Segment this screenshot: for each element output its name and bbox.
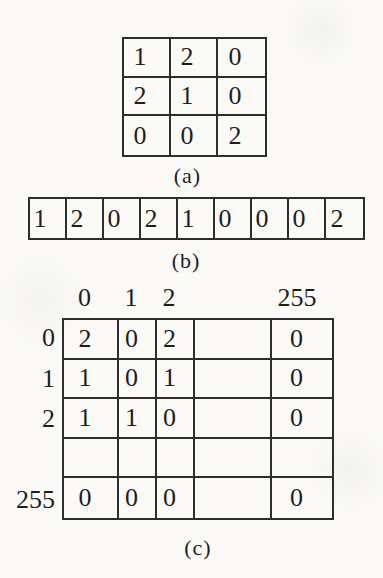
table-b-cell: 0 <box>289 199 326 238</box>
caption-b: (b) <box>0 248 372 274</box>
table-c-cell: 0 <box>272 320 332 360</box>
table-c-row-header <box>16 439 55 479</box>
table-c-cell: 0 <box>119 360 157 400</box>
table-c-cell: 1 <box>119 399 157 439</box>
table-a-cell: 0 <box>218 39 265 78</box>
table-c-col-header: 2 <box>155 283 193 311</box>
table-c-cell <box>157 439 195 479</box>
table-c-cell: 0 <box>119 320 157 360</box>
table-b-cell: 1 <box>30 199 67 238</box>
table-c-col-header: 255 <box>270 283 334 311</box>
table-c-cell: 2 <box>64 320 119 360</box>
table-a-cell: 0 <box>218 78 265 117</box>
table-c-cell <box>64 439 119 479</box>
table-c-cell: 0 <box>272 399 332 439</box>
table-c-row-header: 0 <box>16 318 55 358</box>
table-c-cell: 2 <box>157 320 195 360</box>
table-a-cell: 1 <box>171 78 218 117</box>
table-c-row-header: 2 <box>16 399 55 439</box>
table-b-cell: 0 <box>215 199 252 238</box>
table-a-cell: 2 <box>124 78 171 117</box>
table-a-cell: 2 <box>218 116 265 155</box>
table-c-row-header: 255 <box>16 480 55 520</box>
scanned-figure-page: 1 2 0 2 1 0 0 0 2 (a) 1 2 0 2 1 0 0 0 2 … <box>0 0 383 578</box>
table-c-cell <box>272 439 332 479</box>
table-b-cell: 2 <box>141 199 178 238</box>
table-c-col-header: 1 <box>117 283 155 311</box>
table-b: 1 2 0 2 1 0 0 0 2 <box>28 197 365 240</box>
table-c-cell: 0 <box>119 478 157 518</box>
table-c-row-header: 1 <box>16 358 55 398</box>
caption-a: (a) <box>122 163 253 189</box>
table-c-cell: 0 <box>272 478 332 518</box>
table-c: 2 0 2 0 1 0 1 0 1 1 0 0 0 0 0 0 <box>62 318 334 520</box>
table-c-cell: 1 <box>64 360 119 400</box>
table-c-cell: 0 <box>157 399 195 439</box>
table-c-row-headers: 0 1 2 255 <box>16 318 54 520</box>
table-c-col-header: 0 <box>62 283 117 311</box>
caption-c: (c) <box>62 535 334 561</box>
table-c-cell <box>195 320 272 360</box>
table-a-cell: 1 <box>124 39 171 78</box>
table-c-cell <box>195 478 272 518</box>
table-c-cell <box>195 439 272 479</box>
table-c-cell: 0 <box>64 478 119 518</box>
table-c-cell: 0 <box>157 478 195 518</box>
table-c-cell: 0 <box>272 360 332 400</box>
table-c-cell <box>195 399 272 439</box>
table-b-cell: 2 <box>326 199 363 238</box>
table-c-cell: 1 <box>64 399 119 439</box>
table-b-cell: 0 <box>252 199 289 238</box>
table-b-cell: 1 <box>178 199 215 238</box>
table-b-cell: 0 <box>104 199 141 238</box>
table-a-cell: 2 <box>171 39 218 78</box>
table-a: 1 2 0 2 1 0 0 0 2 <box>122 37 267 157</box>
table-c-cell: 1 <box>157 360 195 400</box>
table-b-cell: 2 <box>67 199 104 238</box>
table-c-cell <box>119 439 157 479</box>
table-c-cell <box>195 360 272 400</box>
table-a-cell: 0 <box>171 116 218 155</box>
table-a-cell: 0 <box>124 116 171 155</box>
